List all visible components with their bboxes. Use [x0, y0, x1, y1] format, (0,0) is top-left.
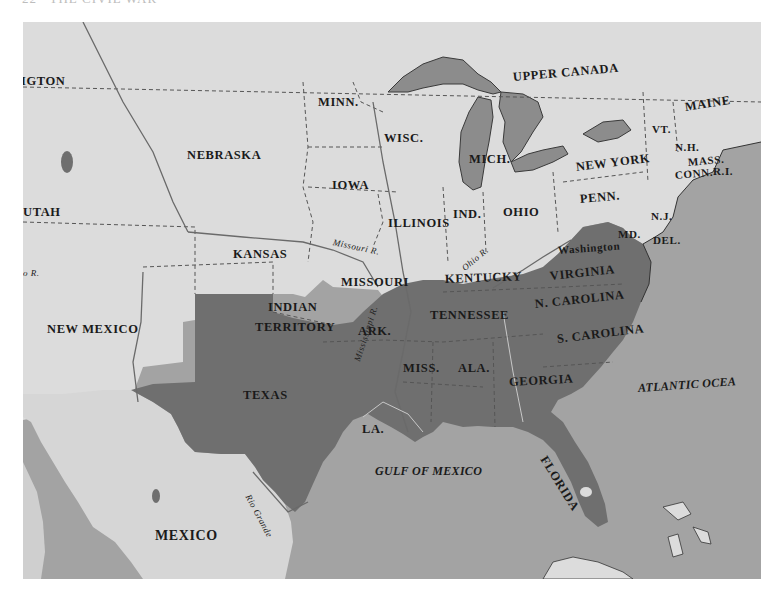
label-texas: TEXAS	[243, 388, 288, 403]
label-wisc: WISC.	[384, 131, 423, 146]
label-mich: MICH.	[469, 152, 511, 167]
label-miss: MISS.	[403, 361, 440, 376]
label-colorado-river: o R.	[23, 268, 40, 278]
label-missouri: MISSOURI	[341, 275, 409, 290]
map-shapes	[23, 22, 761, 579]
label-ohio: OHIO	[503, 205, 539, 220]
label-utah: UTAH	[23, 205, 61, 220]
label-nebraska: NEBRASKA	[187, 148, 261, 163]
page-header: 22 THE CIVIL WAR	[22, 0, 157, 7]
label-la: LA.	[362, 422, 384, 437]
label-indian-territory-line1: INDIAN	[268, 300, 317, 315]
label-kentucky: KENTUCKY	[445, 269, 523, 287]
label-tennessee: TENNESSEE	[430, 308, 509, 323]
label-ri: R.I.	[713, 165, 733, 177]
label-del: DEL.	[653, 234, 681, 246]
civil-war-map: IGTON UTAH NEBRASKA KANSAS NEW MEXICO IN…	[23, 22, 761, 579]
label-washington-territory: IGTON	[23, 74, 65, 89]
label-indian-territory-line2: TERRITORY	[255, 320, 335, 335]
label-nh: N.H.	[675, 141, 699, 153]
label-mexico: MEXICO	[155, 528, 218, 544]
label-ind: IND.	[453, 207, 481, 222]
label-minn: MINN.	[318, 95, 359, 110]
label-kansas: KANSAS	[233, 247, 287, 262]
label-vt: VT.	[652, 123, 671, 135]
label-md: MD.	[618, 228, 641, 240]
label-iowa: IOWA	[332, 178, 369, 193]
label-ala: ALA.	[458, 361, 490, 376]
label-new-mexico: NEW MEXICO	[47, 322, 139, 337]
label-gulf-of-mexico: GULF OF MEXICO	[375, 464, 482, 479]
label-illinois: ILLINOIS	[388, 216, 450, 231]
label-nj: N.J.	[651, 210, 672, 222]
